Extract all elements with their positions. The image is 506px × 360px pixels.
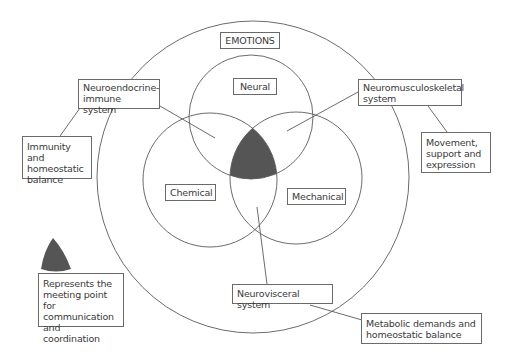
- chemical-label: Chemical: [165, 184, 216, 201]
- neuroendocrine-immune-system-label: Neuroendocrine- immune system: [78, 79, 160, 109]
- connector-neurovisceral: [257, 207, 267, 284]
- meeting-point-legend-text: Represents the meeting point for communi…: [38, 273, 124, 327]
- connector-neuromusculoskeletal: [287, 92, 358, 131]
- neural-label: Neural: [233, 78, 277, 95]
- meeting-point-shape: [230, 112, 362, 244]
- connector-neuroendocrine-immunity: [60, 108, 80, 136]
- metabolic-demands-label: Metabolic demands and homeostatic balanc…: [361, 313, 482, 344]
- connector-neurovisceral-metabolic: [310, 305, 362, 320]
- immunity-homeostatic-balance-label: Immunity and homeostatic balance: [22, 136, 92, 179]
- emotions-venn-diagram: EMOTIONS Neural Chemical Mechanical Neur…: [0, 0, 506, 360]
- meeting-point-legend-icon: [41, 238, 71, 272]
- connector-neuroendocrine: [160, 106, 215, 138]
- mechanical-label: Mechanical: [287, 188, 346, 205]
- neurovisceral-system-label: Neurovisceral system: [232, 284, 333, 304]
- emotions-label: EMOTIONS: [220, 32, 280, 49]
- connector-neuromusculoskeletal-movement: [428, 106, 447, 132]
- movement-support-expression-label: Movement, support and expression: [421, 132, 491, 173]
- neuromusculoskeletal-system-label: Neuromusculoskeletal system: [358, 79, 462, 106]
